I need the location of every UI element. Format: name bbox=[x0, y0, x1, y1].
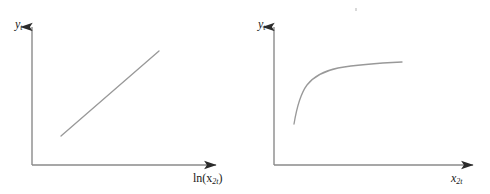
left-y-axis-label-sub: t bbox=[20, 23, 22, 32]
logarithmic-relationship-panel: yt x2t bbox=[245, 0, 490, 194]
right-y-axis-label: yt bbox=[258, 18, 266, 32]
right-x-axis-label-sub: 2t bbox=[456, 177, 462, 186]
linear-relationship-panel: yt ln(x2t) bbox=[0, 0, 245, 194]
left-data-line bbox=[61, 51, 159, 136]
left-x-axis-label: ln(x2t) bbox=[193, 172, 223, 186]
right-data-curve bbox=[294, 62, 402, 124]
figure-container: yt ln(x2t) yt bbox=[0, 0, 490, 194]
left-plot-svg bbox=[0, 0, 245, 194]
right-y-axis-label-sub: t bbox=[263, 23, 265, 32]
left-x-axis-label-suffix: ) bbox=[219, 171, 223, 185]
left-y-axis-label: yt bbox=[15, 18, 23, 32]
right-x-axis-label: x2t bbox=[451, 172, 463, 186]
right-plot-svg bbox=[245, 0, 490, 194]
left-x-axis-label-prefix: ln(x bbox=[193, 171, 212, 185]
